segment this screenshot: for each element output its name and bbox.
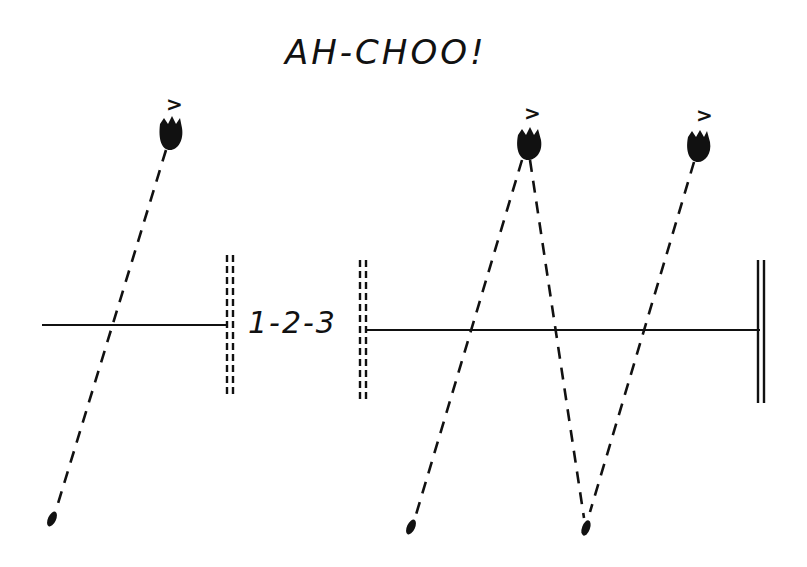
trajectory-3 [590,162,694,512]
gap-label: 1-2-3 [248,305,337,340]
sneezer-head-1 [159,116,182,150]
diagram-canvas [0,0,807,567]
eye-glyph-3: > [696,103,713,127]
droplet-2 [404,518,418,536]
trajectory-2a [415,160,522,518]
diagram-title: AH-CHOO! [285,32,487,72]
trajectory-2b [530,160,584,518]
sneezer-head-2 [517,127,541,160]
left-dashed-wall [227,255,233,397]
droplet-3 [580,519,593,537]
trajectories [56,150,694,518]
right-dashed-wall [360,260,366,402]
droplet-1 [45,510,59,528]
sneezer-head-3 [687,130,710,162]
right-solid-wall [758,260,764,403]
eye-glyph-1: > [166,92,183,116]
eye-glyph-2: > [524,101,541,125]
trajectory-1 [56,150,166,510]
